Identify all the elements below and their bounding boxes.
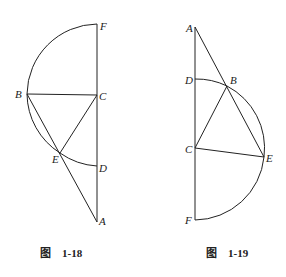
label-f: F [184, 214, 192, 226]
figure-1-18: F C B E D A 图 1-18 [15, 20, 107, 259]
caption-prefix: 图 [206, 247, 217, 259]
label-c: C [99, 90, 107, 102]
label-d: D [184, 74, 193, 86]
segment-cb [195, 86, 227, 148]
caption-prefix: 图 [40, 247, 51, 259]
label-e: E [265, 152, 273, 164]
label-c: C [185, 143, 193, 155]
label-d: D [98, 162, 107, 174]
label-a: A [185, 22, 193, 34]
segment-bc [27, 94, 97, 95]
label-b: B [15, 88, 22, 100]
figure-1-19: A D B C E F 图 1-19 [184, 22, 273, 259]
segment-ce [195, 148, 264, 157]
segment-ba [27, 94, 97, 222]
segment-ae [195, 27, 264, 157]
label-b: B [230, 74, 237, 86]
segment-ce [60, 95, 97, 153]
label-a: A [98, 215, 106, 227]
caption-number: 1-19 [228, 247, 249, 259]
geometry-diagrams: F C B E D A 图 1-18 A D B C E F 图 1-19 [0, 0, 286, 277]
label-f: F [99, 20, 107, 32]
label-e: E [51, 153, 59, 165]
caption-number: 1-18 [62, 247, 83, 259]
